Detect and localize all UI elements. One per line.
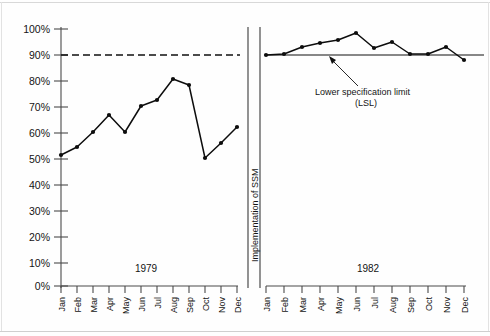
y-tick-label-30: 30% <box>29 205 50 217</box>
left-panel: 1979 Jan Feb Mar Apr M <box>57 77 243 314</box>
x-tick-label-jun-2: Jun <box>352 297 362 312</box>
implementation-divider: Implementation of SSM <box>248 27 260 288</box>
x-tick-label-sep-2: Sep <box>406 297 416 313</box>
x-tick-label-oct: Oct <box>201 297 211 312</box>
y-tick-label-80: 80% <box>29 75 50 87</box>
y-tick-label-90: 90% <box>29 49 50 61</box>
x-tick-label-may: May <box>121 297 131 315</box>
x-tick-label-apr-2: Apr <box>316 297 326 311</box>
x-tick-label-dec-2: Dec <box>460 297 470 314</box>
y-tick-label-50: 50% <box>29 153 50 165</box>
y-tick-label-0: 0% <box>35 280 50 292</box>
year-label-left: 1979 <box>135 263 158 274</box>
x-tick-label-mar-2: Mar <box>298 297 308 313</box>
left-x-tick-labels: Jan Feb Mar Apr May Jun Jul Aug Sep Oct … <box>57 297 243 315</box>
x-tick-label-aug-2: Aug <box>388 297 398 313</box>
x-tick-label-nov: Nov <box>217 297 227 314</box>
x-tick-label-aug: Aug <box>169 297 179 313</box>
x-tick-label-feb: Feb <box>73 297 83 313</box>
process-capability-run-chart: 100% 90% 80% 70% 60% 50% 40% 30% 20% 10%… <box>0 0 490 336</box>
x-tick-label-jan: Jan <box>57 297 67 312</box>
lsl-annotation-line1: Lower specification limit <box>315 87 411 97</box>
x-tick-label-feb-2: Feb <box>280 297 290 313</box>
right-panel: 1982 Jan Feb Mar Apr M <box>262 31 470 314</box>
scanned-page: 100% 90% 80% 70% 60% 50% 40% 30% 20% 10%… <box>0 0 490 336</box>
x-tick-label-mar: Mar <box>89 297 99 313</box>
x-tick-label-may-2: May <box>334 297 344 315</box>
y-tick-label-40: 40% <box>29 179 50 191</box>
x-tick-label-sep: Sep <box>185 297 195 313</box>
y-tick-label-10: 10% <box>29 257 50 269</box>
series-line-left <box>61 79 237 158</box>
right-x-tick-labels: Jan Feb Mar Apr May Jun Jul Aug Sep Oct … <box>262 297 470 315</box>
year-label-right: 1982 <box>357 263 380 274</box>
series-line-right <box>266 33 464 60</box>
series-points-left <box>59 77 239 160</box>
y-tick-label-20: 20% <box>29 231 50 243</box>
y-tick-label-100: 100% <box>23 23 50 35</box>
x-tick-label-apr: Apr <box>105 297 115 311</box>
lsl-annotation-line2: (LSL) <box>355 98 377 108</box>
right-x-ticks <box>266 286 464 293</box>
y-tick-label-70: 70% <box>29 101 50 113</box>
x-tick-label-jul: Jul <box>153 297 163 309</box>
lsl-annotation: Lower specification limit (LSL) <box>315 56 411 108</box>
x-tick-label-oct-2: Oct <box>424 297 434 312</box>
y-axis: 100% 90% 80% 70% 60% 50% 40% 30% 20% 10%… <box>23 23 68 292</box>
implementation-ssm-label: Implementation of SSM <box>250 168 260 262</box>
x-tick-label-dec: Dec <box>233 297 243 314</box>
series-points-right <box>264 31 466 62</box>
left-x-ticks <box>61 286 237 293</box>
x-tick-label-jan-2: Jan <box>262 297 272 312</box>
x-tick-label-nov-2: Nov <box>442 297 452 314</box>
y-tick-label-60: 60% <box>29 127 50 139</box>
x-tick-label-jun: Jun <box>137 297 147 312</box>
x-tick-label-jul-2: Jul <box>370 297 380 309</box>
